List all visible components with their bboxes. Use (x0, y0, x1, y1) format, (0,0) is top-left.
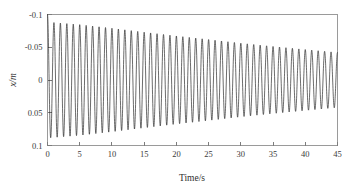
y-tick-label: 0.1 (32, 141, 43, 151)
x-tick-label: 30 (237, 149, 246, 159)
x-tick-label: 15 (140, 149, 149, 159)
x-tick-label: 10 (108, 149, 117, 159)
x-tick-label: 45 (333, 149, 342, 159)
x-tick-label: 0 (45, 149, 49, 159)
y-axis-title-group: x/m (8, 73, 18, 88)
x-tick-label: 25 (204, 149, 213, 159)
x-axis-title: Time/s (179, 173, 205, 183)
x-tick-label: 35 (269, 149, 278, 159)
damped-oscillation-figure: 0.10.050-0.05-0.1 051015202530354045 Tim… (0, 0, 352, 189)
chart-page: 0.10.050-0.05-0.1 051015202530354045 Tim… (0, 0, 352, 189)
x-tick-label: 40 (301, 149, 310, 159)
x-tick-label: 20 (172, 149, 181, 159)
y-tick-label: 0 (38, 75, 42, 85)
y-tick-label: -0.1 (29, 10, 42, 20)
plot-svg: 0.10.050-0.05-0.1 051015202530354045 Tim… (0, 0, 352, 189)
figure-background (0, 0, 352, 189)
y-tick-label: 0.05 (28, 108, 43, 118)
y-axis-title: x/m (8, 73, 18, 88)
y-tick-label: -0.05 (25, 42, 43, 52)
x-tick-label: 5 (78, 149, 82, 159)
